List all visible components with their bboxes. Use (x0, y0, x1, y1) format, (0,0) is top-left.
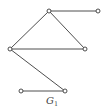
nodes (8, 9, 100, 93)
edge-top-center-right-middle (49, 11, 85, 49)
node-left (8, 47, 12, 51)
node-top-center (47, 9, 51, 13)
edge-left-bottom-right (10, 49, 65, 91)
node-top-right (96, 9, 100, 13)
node-bottom-right (63, 89, 67, 93)
graph-label: G1 (46, 95, 58, 108)
graph-diagram: G1 (0, 0, 107, 111)
node-bottom-left (19, 89, 23, 93)
node-right-middle (83, 47, 87, 51)
edge-top-center-left (10, 11, 49, 49)
